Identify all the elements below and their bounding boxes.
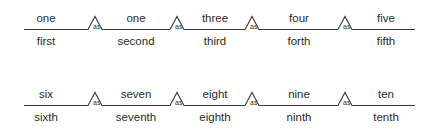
segment-ordinal-label: eighth	[188, 111, 242, 124]
segment-cardinal-label: eight	[188, 88, 242, 101]
connector-as-label: as	[175, 99, 183, 107]
segment-ordinal-label: third	[188, 35, 242, 48]
segment-cardinal-label: five	[358, 12, 414, 25]
segment-cardinal-label: one	[108, 12, 164, 25]
segment-cardinal-label: nine	[266, 88, 332, 101]
connector-as-label: as	[343, 23, 351, 31]
sequence-row-one-to-five: one first one second three third four fo…	[0, 4, 438, 62]
segment-ordinal-label: sixth	[22, 111, 70, 124]
segment-ordinal-label: ninth	[266, 111, 332, 124]
segment-cardinal-label: one	[22, 12, 70, 25]
segment-ordinal-label: seventh	[108, 111, 164, 124]
connector-as-label: as	[175, 23, 183, 31]
segment-cardinal-label: four	[266, 12, 332, 25]
sequence-row-six-to-ten: six sixth seven seventh eight eighth nin…	[0, 80, 438, 135]
segment-ordinal-label: fifth	[358, 35, 414, 48]
connector-as-label: as	[250, 23, 258, 31]
segment-ordinal-label: first	[22, 35, 70, 48]
segment-cardinal-label: six	[22, 88, 70, 101]
segment-ordinal-label: forth	[266, 35, 332, 48]
connector-as-label: as	[93, 99, 101, 107]
connector-as-label: as	[250, 99, 258, 107]
segment-cardinal-label: ten	[358, 88, 414, 101]
segment-ordinal-label: second	[108, 35, 164, 48]
segment-ordinal-label: tenth	[358, 111, 414, 124]
segment-cardinal-label: seven	[108, 88, 164, 101]
segment-cardinal-label: three	[188, 12, 242, 25]
number-sequence-diagram: one first one second three third four fo…	[0, 0, 438, 135]
connector-as-label: as	[93, 23, 101, 31]
connector-as-label: as	[343, 99, 351, 107]
